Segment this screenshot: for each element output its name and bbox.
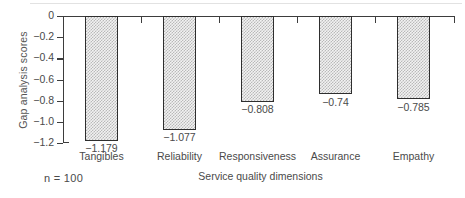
bar-value-reliability: −1.077 [163,131,195,143]
bar-tangibles [85,16,118,141]
category-label-reliability: Reliability [157,150,202,162]
y-axis-spine [63,16,64,143]
bar-value-responsiveness: −0.808 [241,103,273,115]
y-tick-6: −1.2 [57,143,63,144]
y-tick-label-1: −0.2 [33,30,54,42]
y-tick-label-0: 0 [48,9,54,21]
scan-artifact-line [30,3,462,4]
bar-value-assurance: −0.74 [322,96,349,108]
bar-reliability [163,16,196,130]
bar-empathy [397,16,430,99]
y-tick-0: 0 [57,16,63,17]
bar-chart-figure: Gap analysis scores 0 −0.2 −0.4 −0.6 −0.… [0,0,465,198]
sample-size-note: n = 100 [44,172,83,184]
y-axis-spine-foot [63,142,69,143]
bar-assurance [319,16,352,94]
category-label-assurance: Assurance [311,150,361,162]
y-tick-label-2: −0.4 [33,51,54,63]
category-label-tangibles: Tangibles [79,150,123,162]
x-separator-tick-4 [375,16,376,23]
y-tick-2: −0.4 [57,58,63,59]
y-tick-label-5: −1.0 [33,115,54,127]
y-tick-label-6: −1.2 [33,136,54,148]
category-label-empathy: Empathy [393,150,434,162]
x-axis-right-end-tick [454,16,455,23]
y-tick-3: −0.6 [57,80,63,81]
y-tick-label-3: −0.6 [33,73,54,85]
x-separator-tick-1 [141,16,142,23]
bar-value-empathy: −0.785 [397,101,429,113]
y-tick-5: −1.0 [57,122,63,123]
plot-area: 0 −0.2 −0.4 −0.6 −0.8 −1.0 −1.2 [63,16,455,143]
y-tick-4: −0.8 [57,101,63,102]
x-separator-tick-3 [297,16,298,23]
category-label-responsiveness: Responsiveness [219,150,296,162]
bar-responsiveness [241,16,274,102]
y-axis-title: Gap analysis scores [17,10,29,150]
y-tick-label-4: −0.8 [33,94,54,106]
x-separator-tick-2 [219,16,220,23]
y-tick-1: −0.2 [57,37,63,38]
